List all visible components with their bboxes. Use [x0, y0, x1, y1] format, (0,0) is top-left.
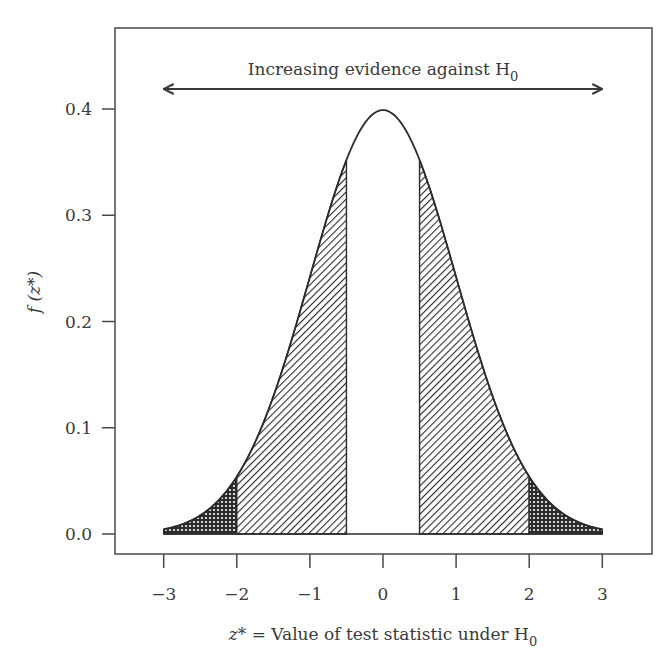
- x-axis: −3−2−10123: [151, 554, 608, 604]
- density-curve: [164, 110, 603, 529]
- x-axis-title-text: = Value of test statistic under H: [246, 624, 529, 644]
- x-axis-title-var: z*: [228, 624, 247, 644]
- region-right-outer-tail: [529, 477, 602, 534]
- y-tick-label: 0.2: [65, 312, 92, 332]
- x-tick-label: 3: [597, 584, 608, 604]
- x-tick-label: 1: [451, 584, 462, 604]
- normal-density-chart: Increasing evidence against H0 −3−2−1012…: [0, 0, 661, 656]
- y-tick-label: 0.1: [65, 418, 92, 438]
- x-tick-label: 0: [378, 584, 389, 604]
- x-tick-label: −3: [151, 584, 176, 604]
- x-axis-title: z* = Value of test statistic under H0: [228, 624, 537, 649]
- region-right-inner: [420, 160, 530, 534]
- annotation-subscript: 0: [510, 69, 518, 84]
- y-axis: 0.00.10.20.30.4: [65, 99, 115, 544]
- y-axis-title: f (z*): [24, 271, 44, 315]
- evidence-annotation: Increasing evidence against H0: [248, 59, 519, 84]
- y-tick-label: 0.4: [65, 99, 92, 119]
- plot-frame: [115, 28, 652, 554]
- x-tick-label: −1: [297, 584, 322, 604]
- shaded-regions: [164, 160, 603, 534]
- x-axis-title-subscript: 0: [529, 634, 537, 649]
- region-left-inner: [237, 160, 347, 534]
- y-tick-label: 0.3: [65, 205, 92, 225]
- y-tick-label: 0.0: [65, 524, 92, 544]
- annotation-text: Increasing evidence against H: [248, 59, 510, 79]
- region-left-outer-tail: [164, 477, 237, 534]
- x-tick-label: −2: [224, 584, 249, 604]
- x-tick-label: 2: [524, 584, 535, 604]
